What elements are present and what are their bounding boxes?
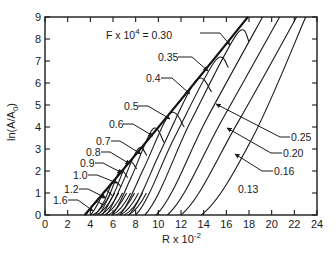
label-f025: 0.25: [291, 131, 312, 143]
x-tick-label: 24: [311, 218, 323, 230]
label-f035: 0.35: [158, 51, 179, 63]
x-tick-label: 10: [152, 218, 164, 230]
label-f013: 0.13: [238, 183, 259, 195]
label-f030: F x 104 = 0.30: [106, 27, 172, 41]
curve-labels: F x 104 = 0.30 0.35 0.4 0.5 0.6 0.7 0.8 …: [53, 27, 312, 211]
x-tick-label: 22: [288, 218, 300, 230]
label-f16: 1.6: [53, 194, 68, 206]
y-tick-label: 7: [35, 55, 41, 67]
x-axis-tick-labels: 024681012141618202224: [42, 218, 323, 230]
x-tick-label: 12: [175, 218, 187, 230]
envelope-line: [85, 17, 248, 215]
y-axis-tick-labels: 0123456789: [35, 11, 41, 221]
label-f09: 0.9: [80, 157, 95, 169]
x-tick-label: 18: [243, 218, 255, 230]
y-tick-label: 0: [35, 209, 41, 221]
x-tick-label: 0: [42, 218, 48, 230]
y-tick-label: 6: [35, 77, 41, 89]
chart: 024681012141618202224 0123456789 R x 10-…: [0, 0, 336, 256]
label-f020: 0.20: [283, 147, 304, 159]
y-tick-label: 1: [35, 187, 41, 199]
x-tick-label: 6: [110, 218, 116, 230]
curve-family: [86, 17, 306, 215]
y-axis-title: ln(A/A0): [5, 103, 20, 141]
x-tick-label: 8: [133, 218, 139, 230]
label-f06: 0.6: [109, 118, 124, 130]
label-f016: 0.16: [274, 165, 295, 177]
x-tick-label: 16: [220, 218, 232, 230]
x-tick-label: 2: [65, 218, 71, 230]
x-tick-label: 4: [87, 218, 93, 230]
x-tick-label: 20: [266, 218, 278, 230]
x-axis-ticks: [45, 17, 317, 215]
y-tick-label: 2: [35, 165, 41, 177]
x-axis-title: R x 10-2: [162, 231, 201, 245]
label-f04: 0.4: [146, 72, 161, 84]
label-f05: 0.5: [124, 100, 139, 112]
label-f10: 1.0: [73, 169, 88, 181]
plot-frame: [45, 17, 317, 215]
x-tick-label: 14: [198, 218, 210, 230]
y-tick-label: 9: [35, 11, 41, 23]
envelope-curve: [85, 17, 248, 215]
y-axis-ticks: [45, 17, 317, 215]
y-tick-label: 5: [35, 99, 41, 111]
y-tick-label: 3: [35, 143, 41, 155]
y-tick-label: 4: [35, 121, 41, 133]
y-tick-label: 8: [35, 33, 41, 45]
